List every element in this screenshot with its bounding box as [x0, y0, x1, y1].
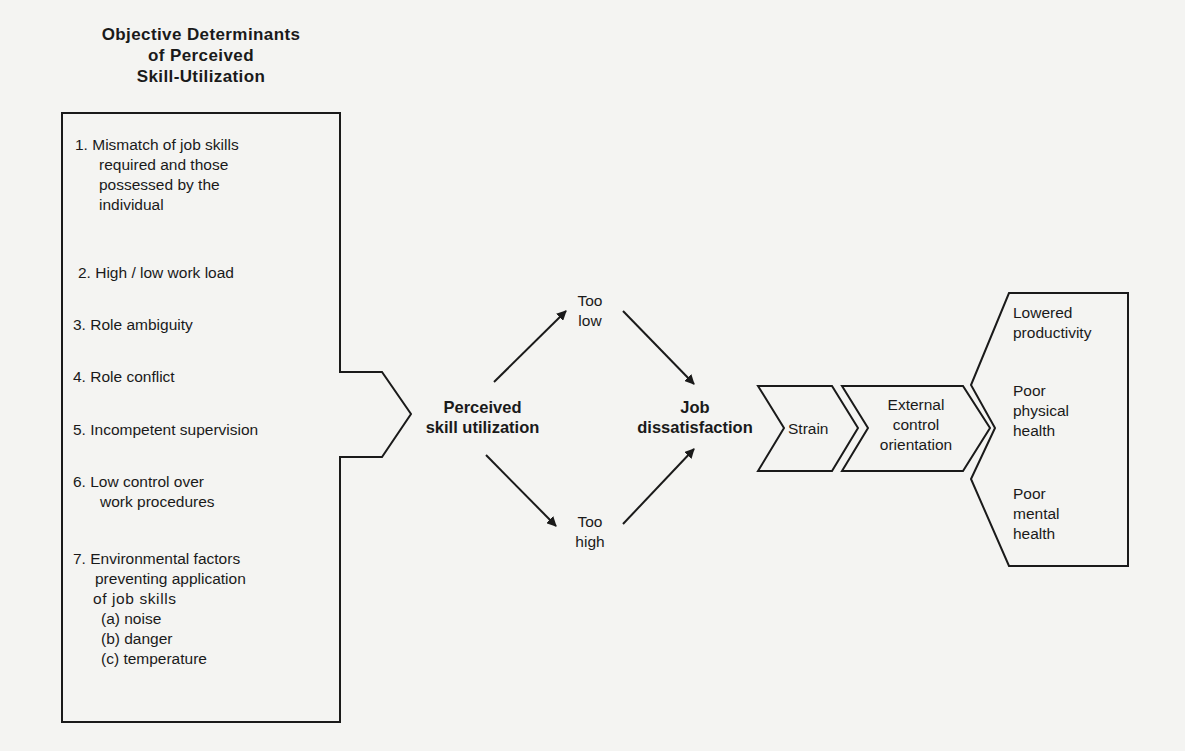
determinant-6: 6. Low control over work procedures	[73, 472, 215, 512]
determinant-7b: (b) danger	[73, 629, 246, 649]
outcome-poor-physical-health: Poor physical health	[1013, 381, 1069, 441]
arrow-too-high-to-job	[623, 449, 694, 524]
node-too-low: Too low	[568, 291, 612, 331]
node-perceived-skill-utilization: Perceived skill utilization	[415, 397, 550, 437]
outcome-poor-mental-health: Poor mental health	[1013, 484, 1060, 544]
determinant-5: 5. Incompetent supervision	[73, 420, 258, 440]
node-job-dissatisfaction: Job dissatisfaction	[620, 397, 770, 437]
arrow-too-low-to-job	[623, 311, 694, 384]
title-line-3: Skill-Utilization	[60, 66, 342, 87]
node-strain: Strain	[788, 419, 829, 439]
determinant-7: 7. Environmental factors preventing appl…	[73, 549, 246, 669]
title-line-2: of Perceived	[60, 45, 342, 66]
determinant-3: 3. Role ambiguity	[73, 315, 193, 335]
diagram-title: Objective Determinants of Perceived Skil…	[60, 24, 342, 87]
determinant-7c: (c) temperature	[73, 649, 246, 669]
node-too-high: Too high	[568, 512, 612, 552]
arrow-perceived-to-too-low	[494, 311, 566, 382]
determinant-2: 2. High / low work load	[78, 263, 234, 283]
title-line-1: Objective Determinants	[60, 24, 342, 45]
determinant-4: 4. Role conflict	[73, 367, 175, 387]
outcome-lowered-productivity: Lowered productivity	[1013, 303, 1091, 343]
determinant-1: 1. Mismatch of job skills required and t…	[75, 135, 239, 215]
determinant-7a: (a) noise	[73, 609, 246, 629]
node-external-control-orientation: External control orientation	[866, 395, 966, 455]
arrow-perceived-to-too-high	[486, 455, 556, 526]
